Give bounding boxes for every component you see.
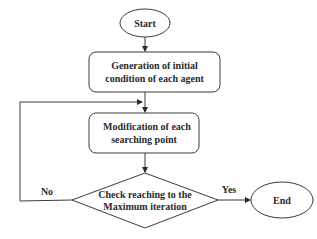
flowchart-canvas: Start Generation of initial condition of… xyxy=(0,0,317,239)
check-decision-diamond: Check reaching to the Maximum iteration xyxy=(72,173,218,228)
check-label-line2: Maximum iteration xyxy=(103,201,187,212)
end-node: End xyxy=(251,182,313,218)
init-process-box: Generation of initial condition of each … xyxy=(89,52,220,92)
modify-label-line1: Modification of each xyxy=(103,121,191,132)
check-label-line1: Check reaching to the xyxy=(98,189,192,200)
init-label-line1: Generation of initial xyxy=(111,60,198,71)
start-label: Start xyxy=(134,18,156,29)
modify-label-line2: searching point xyxy=(111,134,177,145)
init-label-line2: condition of each agent xyxy=(105,73,204,84)
start-node: Start xyxy=(120,9,170,37)
end-label: End xyxy=(273,195,291,206)
no-branch-label: No xyxy=(41,186,53,197)
modify-process-box: Modification of each searching point xyxy=(89,113,199,153)
yes-branch-label: Yes xyxy=(222,184,237,195)
